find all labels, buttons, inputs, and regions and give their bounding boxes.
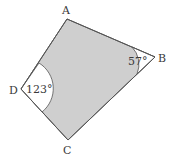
vertex-label-d: D <box>9 84 18 97</box>
quadrilateral-diagram: A B C D 57° 123° <box>0 0 183 158</box>
diagram-canvas: A B C D 57° 123° <box>0 0 183 158</box>
vertex-label-a: A <box>61 4 71 17</box>
angle-label-d: 123° <box>26 83 53 96</box>
angle-label-b: 57° <box>128 55 148 68</box>
vertex-label-b: B <box>158 52 166 65</box>
vertex-label-c: C <box>63 144 71 157</box>
